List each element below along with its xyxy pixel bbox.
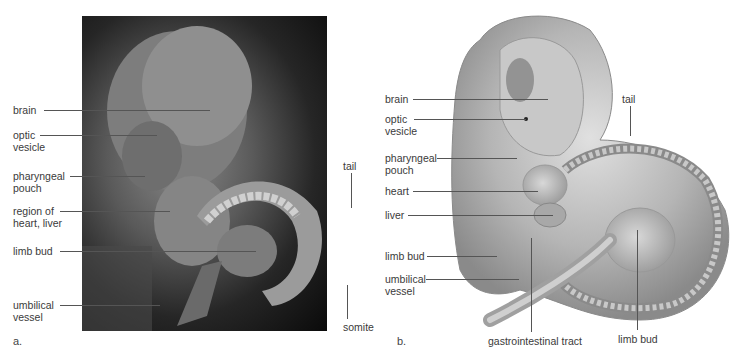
- illustration-embryo: [0, 0, 737, 358]
- leader-line: [531, 238, 532, 332]
- label-b-limb-bud-left: limb bud: [385, 250, 425, 262]
- label-b-umbilical-vessel: umbilicalvessel: [385, 273, 426, 297]
- panel-letter-b: b.: [397, 335, 406, 347]
- leader-line: [414, 119, 526, 120]
- label-b-heart: heart: [385, 185, 409, 197]
- label-b-brain: brain: [385, 93, 408, 105]
- leader-line: [408, 215, 553, 216]
- leader-line: [413, 191, 538, 192]
- leader-line: [637, 230, 638, 330]
- label-b-tail: tail: [622, 93, 635, 105]
- leader-line: [426, 279, 519, 280]
- leader-line: [437, 158, 517, 159]
- label-b-pharyngeal-pouch: pharyngealpouch: [385, 152, 437, 176]
- label-b-gastrointestinal-tract: gastrointestinal tract: [488, 335, 582, 347]
- leader-line: [630, 106, 631, 136]
- leader-line: [413, 99, 548, 100]
- leader-line: [427, 256, 497, 257]
- label-b-liver: liver: [385, 209, 404, 221]
- label-b-limb-bud-bottom: limb bud: [618, 333, 658, 345]
- label-b-optic-vesicle: opticvesicle: [385, 113, 417, 137]
